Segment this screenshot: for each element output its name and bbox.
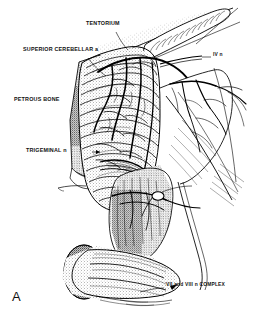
label-trigeminal-nerve: TRIGEMINAL n — [26, 148, 67, 153]
panel-letter: A — [12, 290, 21, 303]
anatomical-figure: TENTORIUM SUPERIOR CEREBELLAR a IV n PET… — [0, 0, 257, 321]
label-vii-viii-complex: VII and VIII n COMPLEX — [166, 283, 225, 288]
label-superior-cerebellar-artery: SUPERIOR CEREBELLAR a — [23, 47, 98, 52]
label-tentorium: TENTORIUM — [86, 21, 120, 26]
label-petrous-bone: PETROUS BONE — [14, 97, 60, 102]
label-iv-nerve: IV n — [213, 53, 223, 58]
